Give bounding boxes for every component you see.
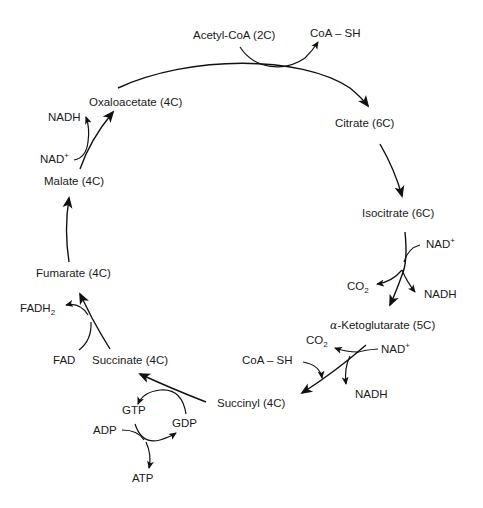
label-succinate: Succinate (4C): [92, 355, 168, 367]
label-nad-isocitrate: NAD+: [426, 239, 455, 251]
label-ketoglutarate-text: -Ketoglutarate (5C): [337, 319, 435, 331]
arrow-coash-in-akg: [303, 362, 322, 378]
arrow-succinyl-to-succinate: [140, 374, 206, 402]
label-fumarate: Fumarate (4C): [36, 268, 111, 280]
label-co2-akg: CO2: [306, 335, 328, 347]
label-nad-akg: NAD+: [381, 344, 410, 356]
arrow-co2-out-isocitrate: [377, 270, 402, 284]
label-malate: Malate (4C): [44, 176, 104, 188]
cycle-arrows: [0, 0, 483, 508]
label-fadh2: FADH2: [20, 303, 55, 315]
arrow-atp-out: [146, 442, 150, 468]
label-nadh-akg: NADH: [355, 389, 388, 401]
arrow-gtp-to-gdp: [135, 424, 176, 441]
label-gdp: GDP: [172, 418, 197, 430]
arrow-fumarate-to-malate: [67, 198, 70, 262]
arrow-nadh-out-malate: [86, 117, 89, 142]
arrow-isocitrate-to-akg: [390, 232, 406, 305]
arrow-co2-out-akg: [335, 348, 358, 352]
arrow-fadh2-out: [66, 304, 88, 315]
label-nadh-malate: NADH: [48, 112, 81, 124]
label-adp: ADP: [93, 425, 117, 437]
arrow-nadh-out-isocitrate: [402, 270, 415, 292]
arrow-nad-in-malate: [74, 142, 88, 160]
label-nad-malate: NAD+: [40, 154, 69, 166]
label-acetyl-coa: Acetyl-CoA (2C): [193, 30, 275, 42]
label-succinyl: Succinyl (4C): [217, 398, 285, 410]
label-nadh-isocitrate: NADH: [424, 289, 457, 301]
label-coash-top: CoA – SH: [310, 28, 361, 40]
label-citrate: Citrate (6C): [335, 118, 394, 130]
label-gtp: GTP: [122, 405, 146, 417]
arrow-succinate-to-fumarate: [80, 294, 110, 349]
arrow-citrate-to-isocitrate: [380, 144, 402, 196]
arrow-nadh-out-akg: [346, 356, 351, 384]
arrow-malate-to-oxaloacetate: [80, 112, 113, 169]
label-co2-isocitrate: CO2: [347, 281, 369, 293]
label-isocitrate: Isocitrate (6C): [362, 208, 434, 220]
label-atp: ATP: [132, 473, 154, 485]
label-alpha-ketoglutarate: α-Ketoglutarate (5C): [330, 320, 435, 332]
label-fad: FAD: [53, 355, 75, 367]
label-coash-akg: CoA – SH: [242, 355, 293, 367]
krebs-cycle-diagram: Acetyl-CoA (2C) Citrate (6C) Isocitrate …: [0, 0, 483, 508]
arrow-fad-in: [79, 322, 91, 350]
label-oxaloacetate: Oxaloacetate (4C): [89, 97, 182, 109]
